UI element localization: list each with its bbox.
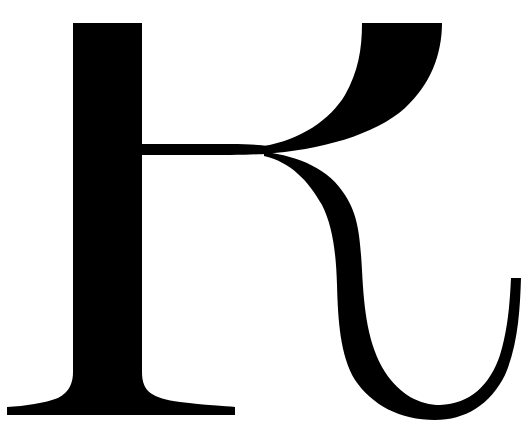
letter-k-glyph bbox=[0, 0, 532, 430]
glyph-leg bbox=[264, 152, 521, 420]
glyph-bar bbox=[142, 144, 268, 155]
glyph-canvas: K bbox=[0, 0, 532, 430]
glyph-arm bbox=[264, 23, 442, 154]
glyph-stem bbox=[7, 23, 235, 415]
